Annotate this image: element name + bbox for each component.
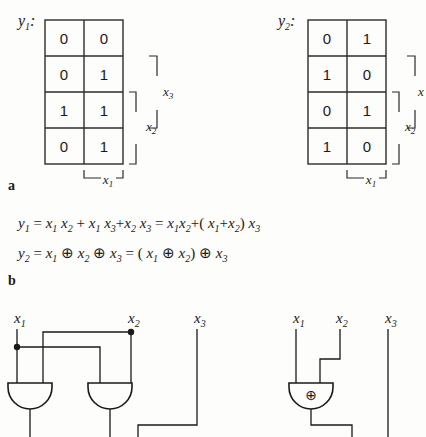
kmap-y2-cell-r1c1: 0 [363, 66, 371, 83]
eq-y2: y2 = x1 ⊕ x2 ⊕ x3 = ( x1 ⊕ x2) ⊕ x3 [16, 245, 227, 264]
figure-kmaps-equations-circuits: y1: 0 0 0 1 1 1 0 1 x1 [0, 0, 426, 437]
kmap-y1-cell-r0c0: 0 [60, 30, 68, 47]
kmap-y1-cell-r2c1: 1 [100, 102, 108, 119]
kmap-y1-label: y1: [16, 12, 35, 32]
xor-glyph-4: ⊕ [199, 245, 212, 261]
kmap-y2-cell-r2c0: 0 [323, 102, 331, 119]
circuit-y1-input-label-x2: x2 [127, 310, 140, 329]
circuit-y1-input-label-x1: x1 [13, 310, 26, 329]
kmap-y2-cell-r1c0: 1 [323, 66, 331, 83]
kmap-y1-cell-r3c0: 0 [60, 138, 68, 155]
kmap-y2-bracket-x1-label: x1 [365, 172, 376, 189]
figure-canvas: y1: 0 0 0 1 1 1 0 1 x1 [0, 0, 426, 437]
caption-a: a [8, 178, 15, 193]
circuit-y1: x1 x2 x3 [8, 310, 206, 437]
xor-glyph-1: ⊕ [61, 245, 74, 261]
kmap-y1-cell-r1c0: 0 [60, 66, 68, 83]
kmap-y2-cell-r3c1: 0 [363, 138, 371, 155]
kmap-y1-cell-r1c1: 1 [100, 66, 108, 83]
xor-glyph-3: ⊕ [162, 245, 175, 261]
kmap-y2-bracket-x3 [407, 56, 415, 128]
kmap-y1-grid [45, 20, 123, 164]
kmap-y1-bracket-x3 [149, 56, 157, 128]
and-gate-1 [8, 383, 52, 409]
junction-dot-x1 [14, 344, 20, 350]
xor-gate-1-symbol: ⊕ [305, 387, 317, 403]
kmap-y1-cell-r0c1: 0 [100, 30, 108, 47]
circuit-y2-input-label-x1: x1 [292, 310, 305, 329]
circuit-y2: x1 x2 x3 ⊕ [289, 310, 397, 437]
kmap-y2-cell-r0c0: 0 [323, 30, 331, 47]
kmap-y2: y2: 0 1 1 0 0 1 1 0 x1 x2 [276, 12, 424, 189]
and-gate-2 [88, 383, 132, 409]
kmap-y2-bracket-x2 [392, 92, 399, 164]
kmap-y1: y1: 0 0 0 1 1 1 0 1 x1 [16, 12, 174, 189]
kmap-y1-cell-r3c1: 1 [100, 138, 108, 155]
kmap-y1-cell-r2c0: 1 [60, 102, 68, 119]
kmap-y2-grid [308, 20, 386, 164]
kmap-y2-label: y2: [276, 12, 295, 32]
kmap-y1-bracket-x3-label: x3 [162, 84, 174, 101]
kmap-y2-cell-r3c0: 1 [323, 138, 331, 155]
kmap-y1-bracket-x1-label: x1 [102, 172, 113, 189]
eq-y1-text: y1 = x1 x2 + x1 x3+x2 x3 = x1x2+( x1+x2)… [16, 215, 260, 234]
xor-gate-1: ⊕ [289, 383, 333, 409]
kmap-y2-cell-r2c1: 1 [363, 102, 371, 119]
junction-dot-x2 [128, 329, 134, 335]
circuit-y2-input-label-x2: x2 [335, 310, 348, 329]
circuit-y1-input-label-x3: x3 [193, 310, 206, 329]
kmap-y2-bracket-x3-label: x [417, 84, 424, 99]
kmap-y2-cell-r0c1: 1 [363, 30, 371, 47]
kmap-y1-bracket-x2 [129, 92, 136, 164]
circuit-y2-input-label-x3: x3 [384, 310, 397, 329]
eq-y2-text: y2 = x1 ⊕ x2 ⊕ x3 = ( x1 ⊕ x2) ⊕ x3 [16, 245, 227, 264]
equations-block: y1 = x1 x2 + x1 x3+x2 x3 = x1x2+( x1+x2)… [8, 215, 260, 288]
xor-glyph-2: ⊕ [93, 245, 106, 261]
eq-y1: y1 = x1 x2 + x1 x3+x2 x3 = x1x2+( x1+x2)… [16, 215, 260, 234]
caption-b: b [8, 273, 16, 288]
